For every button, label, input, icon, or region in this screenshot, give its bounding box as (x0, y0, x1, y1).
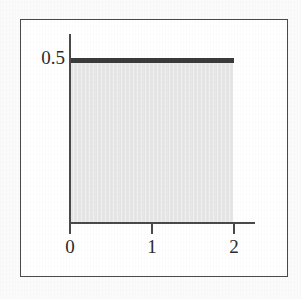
density-shaded-area (69, 62, 233, 223)
y-tick-label-0point5: 0.5 (21, 47, 65, 69)
x-tick-mark-2 (233, 224, 235, 234)
density-line (69, 58, 234, 63)
figure-frame: 0 1 2 0.5 (20, 19, 288, 277)
x-axis-line (69, 222, 255, 224)
x-tick-mark-0 (69, 224, 71, 234)
plot-area: 0 1 2 0.5 (21, 20, 289, 278)
x-tick-label-1: 1 (137, 236, 167, 258)
y-axis-line (69, 34, 71, 224)
x-tick-mark-1 (151, 224, 153, 234)
figure-root: 0 1 2 0.5 (0, 0, 301, 299)
x-tick-label-2: 2 (219, 236, 249, 258)
x-tick-label-0: 0 (55, 236, 85, 258)
